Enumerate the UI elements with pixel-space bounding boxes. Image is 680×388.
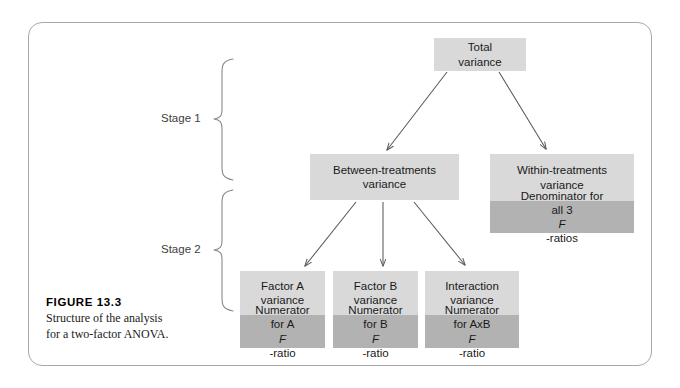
node-factor-b-role-line-2-italic: F [362,332,388,346]
arrow-total-to-within [499,72,546,149]
stage-2-label: Stage 2 [161,243,201,255]
node-factor-a-role: Numerator for A F-ratio [240,315,325,348]
node-factor-a-role-line-2-post: -ratio [269,346,295,360]
node-factor-a-variance-line-1: Factor A [261,279,304,293]
figure-caption-line-1: Structure of the analysis [46,311,221,327]
node-factor-b-role: Numerator for B F-ratio [333,315,418,348]
node-interaction-role-line-2-italic: F [453,332,490,346]
node-factor-a-role-line-2-italic: F [269,332,295,346]
stage-2-bracket [214,190,233,311]
node-within-treatments-variance: Within-treatments variance Denominator f… [490,154,634,233]
node-interaction-role-line-2-post: -ratio [453,346,490,360]
node-factor-a-role-line-2-pre: for A [269,317,295,331]
node-factor-b-role-line-2-pre: for B [362,317,388,331]
node-within-treatments-role-line-1: Denominator for [521,189,603,203]
node-factor-b-role-line-2: for B F-ratio [362,317,388,359]
node-interaction-role-line-2: for AxB F-ratio [453,317,490,359]
node-factor-a-role-line-1: Numerator [255,303,309,317]
node-factor-b-role-line-1: Numerator [348,303,402,317]
node-factor-b-variance-line-1: Factor B [354,279,397,293]
node-within-treatments-role: Denominator for all 3 F-ratios [490,201,634,233]
node-total-variance: Total variance [434,38,526,71]
node-interaction-variance-line-1: Interaction [445,279,499,293]
node-interaction-role-line-2-pre: for AxB [453,317,490,331]
node-between-treatments-variance: Between-treatments variance [310,154,459,200]
node-total-variance-body: Total variance [434,38,526,71]
node-interaction-role-line-1: Numerator [445,303,499,317]
node-between-treatments-variance-line-2: variance [363,177,406,191]
node-interaction-variance: Interaction variance Numerator for AxB F… [425,271,519,348]
node-factor-b-variance: Factor B variance Numerator for B F-rati… [333,271,418,348]
stage-1-label: Stage 1 [161,112,201,124]
node-within-treatments-role-line-2-italic: F [546,217,578,231]
node-factor-a-role-line-2: for A F-ratio [269,317,295,359]
figure-caption-line-2: for a two-factor ANOVA. [46,327,221,343]
figure-caption-text: Structure of the analysis for a two-fact… [46,311,221,343]
stage-1-bracket [214,59,233,180]
node-within-treatments-role-line-2: all 3 F-ratios [546,203,578,245]
node-within-treatments-variance-line-1: Within-treatments [517,163,607,177]
node-total-variance-line-1: Total [468,40,492,54]
arrow-total-to-between [387,72,447,150]
node-between-treatments-variance-body: Between-treatments variance [310,154,459,200]
arrow-between-to-interaction [414,202,465,265]
node-factor-a-variance: Factor A variance Numerator for A F-rati… [240,271,325,348]
node-total-variance-line-2: variance [458,55,501,69]
node-factor-b-role-line-2-post: -ratio [362,346,388,360]
figure-number-label: FIGURE 13.3 [46,296,221,308]
node-within-treatments-role-line-2-pre: all 3 [546,203,578,217]
arrow-between-to-factor-a [305,202,356,266]
anova-structure-diagram: Stage 1 Stage 2 Total variance Between-t… [0,0,680,388]
node-between-treatments-variance-line-1: Between-treatments [333,163,436,177]
node-interaction-role: Numerator for AxB F-ratio [425,315,519,348]
figure-caption: FIGURE 13.3 Structure of the analysis fo… [46,296,221,343]
node-within-treatments-role-line-2-post: -ratios [546,231,578,245]
